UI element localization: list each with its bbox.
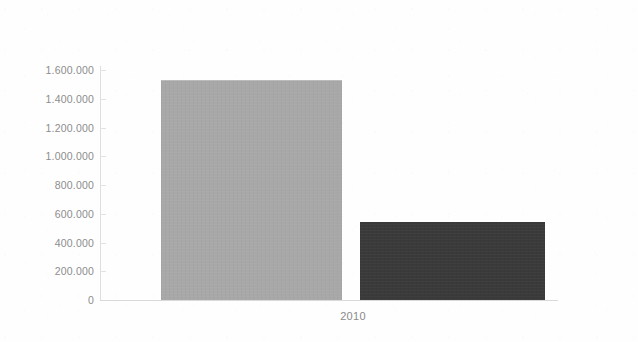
y-tick-label-1400000: 1.400.000 (14, 93, 94, 105)
y-tick-label-1200000: 1.200.000 (14, 122, 94, 134)
x-tick-label-2010: 2010 (340, 310, 366, 322)
y-tick-label-1000000: 1.000.000 (14, 150, 94, 162)
y-tick-label-600000: 600.000 (14, 208, 94, 220)
y-tick-label-800000: 800.000 (14, 179, 94, 191)
bar-series-2-2010 (360, 222, 545, 300)
bar-chart: 1.600.0001.400.0001.200.0001.000.000800.… (0, 0, 638, 342)
bar-series-1-2010 (161, 80, 342, 300)
y-tick-label-0: 0 (14, 294, 94, 306)
x-axis-category-label: 2010 (0, 310, 638, 322)
bar-texture (161, 80, 342, 300)
y-tick-label-200000: 200.000 (14, 265, 94, 277)
bar-texture (360, 222, 545, 300)
y-tick-label-1600000: 1.600.000 (14, 64, 94, 76)
x-axis-line (100, 300, 558, 301)
y-tick-label-400000: 400.000 (14, 237, 94, 249)
plot-area (100, 64, 558, 300)
